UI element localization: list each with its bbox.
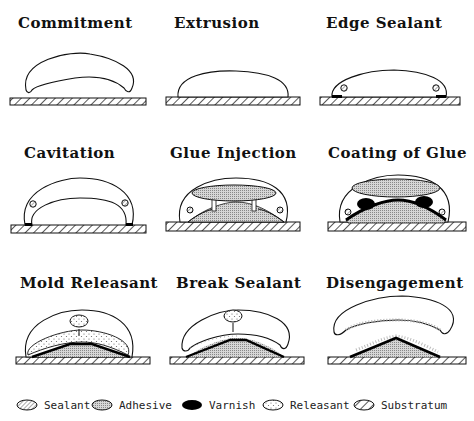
coating-of-glue-illustration <box>316 130 474 260</box>
panel-break-sealant: Break Sealant <box>158 260 316 390</box>
panel-disengagement: Disengagement <box>316 260 474 390</box>
panel-commitment: Commitment <box>0 0 158 130</box>
legend-item-sealant: Sealant <box>16 393 90 417</box>
panel-glue-injection: Glue Injection <box>158 130 316 260</box>
sealant-swatch-icon <box>16 399 38 411</box>
legend-label: Varnish <box>209 399 255 412</box>
legend-label: Adhesive <box>119 399 172 412</box>
panel-edge-sealant: Edge Sealant <box>316 0 474 130</box>
releasant-swatch-icon <box>262 399 284 411</box>
glue-injection-illustration <box>158 130 316 260</box>
legend: Sealant Adhesive Varnish Releasant Subst… <box>0 393 474 417</box>
mold-releasant-illustration <box>0 260 158 390</box>
legend-item-adhesive: Adhesive <box>91 393 172 417</box>
legend-item-releasant: Releasant <box>262 393 350 417</box>
varnish-swatch-icon <box>181 399 203 411</box>
cavitation-illustration <box>0 130 158 260</box>
extrusion-illustration <box>158 0 316 130</box>
legend-label: Substratum <box>381 399 447 412</box>
legend-item-varnish: Varnish <box>181 393 255 417</box>
legend-item-substratum: Substratum <box>353 393 447 417</box>
substratum-swatch-icon <box>353 399 375 411</box>
break-sealant-illustration <box>158 260 316 390</box>
adhesive-swatch-icon <box>91 399 113 411</box>
commitment-illustration <box>0 0 158 130</box>
legend-label: Sealant <box>44 399 90 412</box>
legend-label: Releasant <box>290 399 350 412</box>
panel-coating-of-glue: Coating of Glue <box>316 130 474 260</box>
edge-sealant-illustration <box>316 0 474 130</box>
panel-cavitation: Cavitation <box>0 130 158 260</box>
disengagement-illustration <box>316 260 474 390</box>
panel-mold-releasant: Mold Releasant <box>0 260 158 390</box>
panel-extrusion: Extrusion <box>158 0 316 130</box>
